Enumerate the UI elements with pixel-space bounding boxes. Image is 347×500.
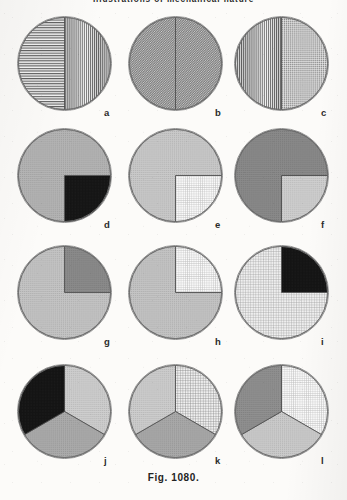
shading-disc-c bbox=[234, 16, 329, 111]
shading-disc-g bbox=[17, 245, 112, 340]
disc-wrap-h bbox=[128, 245, 223, 340]
shading-disc-k bbox=[128, 364, 223, 459]
sector-a-2 bbox=[18, 17, 65, 110]
figure-cell-d: d bbox=[8, 128, 124, 243]
figure-cell-h: h bbox=[119, 245, 235, 360]
shading-disc-f bbox=[234, 128, 329, 223]
figure-cell-a: a bbox=[8, 16, 124, 131]
disc-label-b: b bbox=[215, 108, 221, 118]
figure-cell-i: i bbox=[225, 245, 341, 360]
shading-disc-h bbox=[128, 245, 223, 340]
shading-disc-i bbox=[234, 245, 329, 340]
sector-a-1 bbox=[65, 17, 112, 110]
figure-cell-f: f bbox=[225, 128, 341, 243]
running-head: Illustrations of mechanical nature bbox=[0, 0, 347, 5]
sector-c-1 bbox=[282, 17, 329, 110]
disc-wrap-j bbox=[17, 364, 112, 459]
shading-disc-e bbox=[128, 128, 223, 223]
figure-cell-j: j bbox=[8, 364, 124, 479]
disc-wrap-f bbox=[234, 128, 329, 223]
disc-wrap-a bbox=[17, 16, 112, 111]
sector-b-1 bbox=[176, 17, 223, 110]
disc-wrap-d bbox=[17, 128, 112, 223]
disc-label-l: l bbox=[321, 456, 324, 466]
sector-c-2 bbox=[235, 17, 282, 110]
shading-disc-b bbox=[128, 16, 223, 111]
disc-label-h: h bbox=[215, 337, 221, 347]
figure-cell-k: k bbox=[119, 364, 235, 479]
figure-cell-e: e bbox=[119, 128, 235, 243]
disc-wrap-b bbox=[128, 16, 223, 111]
disc-label-c: c bbox=[321, 108, 326, 118]
figure-caption: Fig. 1080. bbox=[0, 472, 347, 483]
shading-disc-d bbox=[17, 128, 112, 223]
disc-wrap-g bbox=[17, 245, 112, 340]
disc-label-i: i bbox=[321, 337, 324, 347]
figure-cell-l: l bbox=[225, 364, 341, 479]
disc-label-f: f bbox=[321, 220, 324, 230]
sector-b-2 bbox=[129, 17, 176, 110]
disc-wrap-c bbox=[234, 16, 329, 111]
shading-disc-j bbox=[17, 364, 112, 459]
shading-disc-l bbox=[234, 364, 329, 459]
disc-label-g: g bbox=[104, 337, 110, 347]
figure-circle-grid: abcdefghijkl bbox=[0, 16, 347, 476]
shading-disc-a bbox=[17, 16, 112, 111]
disc-label-a: a bbox=[104, 108, 109, 118]
figure-cell-g: g bbox=[8, 245, 124, 360]
disc-wrap-e bbox=[128, 128, 223, 223]
disc-label-k: k bbox=[215, 456, 220, 466]
disc-label-j: j bbox=[104, 456, 107, 466]
disc-label-e: e bbox=[215, 220, 220, 230]
figure-cell-c: c bbox=[225, 16, 341, 131]
disc-wrap-l bbox=[234, 364, 329, 459]
disc-label-d: d bbox=[104, 220, 110, 230]
disc-wrap-i bbox=[234, 245, 329, 340]
figure-cell-b: b bbox=[119, 16, 235, 131]
disc-wrap-k bbox=[128, 364, 223, 459]
scanned-page: Illustrations of mechanical nature abcde… bbox=[0, 0, 347, 500]
